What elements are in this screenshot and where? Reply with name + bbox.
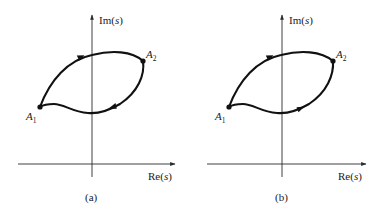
lower-curve-arrow-icon	[297, 107, 305, 113]
lower-curve-path	[229, 61, 333, 113]
axes-b	[207, 15, 366, 177]
real-axis-label: Re(s)	[148, 170, 172, 183]
contour-figure: Im(s) Re(s) A1 A2 (a)	[0, 0, 384, 212]
caption-b: (b)	[275, 191, 288, 204]
label-a1: A1	[214, 110, 226, 125]
lower-curve-arrow-icon	[108, 103, 117, 109]
point-a2	[330, 58, 335, 63]
point-a1	[37, 104, 42, 109]
label-a2: A2	[145, 48, 157, 63]
label-a2: A2	[335, 48, 347, 63]
label-a1: A1	[25, 110, 37, 125]
point-a2	[140, 58, 145, 63]
point-a1	[226, 104, 231, 109]
panel-b: Im(s) Re(s) A1 A2 (b)	[207, 14, 366, 204]
caption-a: (a)	[85, 191, 98, 204]
panel-a: Im(s) Re(s) A1 A2 (a)	[18, 14, 175, 204]
imaginary-axis-label: Im(s)	[99, 14, 123, 27]
real-axis-label: Re(s)	[338, 170, 362, 183]
axes-a	[18, 15, 175, 177]
imaginary-axis-label: Im(s)	[289, 14, 313, 27]
